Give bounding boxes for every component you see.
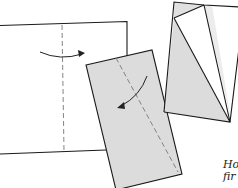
step-3-sheet bbox=[164, 2, 238, 122]
origami-diagram bbox=[0, 0, 238, 188]
caption-line-2: fir bbox=[223, 171, 236, 183]
